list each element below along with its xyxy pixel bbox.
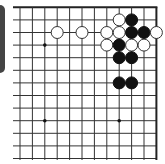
black-stone[interactable] (126, 77, 138, 89)
white-stone[interactable] (126, 39, 138, 51)
white-stone[interactable] (51, 27, 63, 39)
black-stone[interactable] (126, 52, 138, 64)
black-stone[interactable] (113, 39, 125, 51)
white-stone[interactable] (113, 14, 125, 26)
black-stone[interactable] (113, 52, 125, 64)
go-board[interactable] (0, 0, 165, 164)
white-stone[interactable] (101, 39, 113, 51)
white-stone[interactable] (138, 39, 150, 51)
white-stone[interactable] (113, 27, 125, 39)
star-point (43, 119, 47, 123)
black-stone[interactable] (138, 27, 150, 39)
white-stone[interactable] (76, 27, 88, 39)
black-stone[interactable] (126, 27, 138, 39)
white-stone[interactable] (150, 27, 162, 39)
star-point (43, 43, 47, 47)
star-point (117, 119, 121, 123)
black-stone[interactable] (113, 77, 125, 89)
white-stone[interactable] (101, 27, 113, 39)
black-stone[interactable] (126, 14, 138, 26)
